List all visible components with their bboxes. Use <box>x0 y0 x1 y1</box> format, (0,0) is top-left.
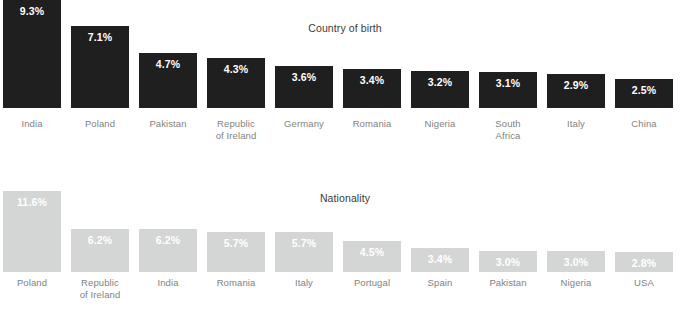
bar-value-label: 3.2% <box>411 76 469 88</box>
bar[interactable]: 3.4% <box>343 69 401 108</box>
category-label: Pakistan <box>472 277 544 289</box>
bar[interactable]: 2.9% <box>547 74 605 108</box>
chart-country-of-birth: Country of birth 9.3%7.1%4.7%4.3%3.6%3.4… <box>0 0 681 156</box>
bar[interactable]: 3.4% <box>411 248 469 272</box>
category-label: China <box>608 118 680 130</box>
category-label: SouthAfrica <box>472 118 544 141</box>
category-label: Poland <box>64 118 136 130</box>
bar-value-label: 3.4% <box>343 74 401 86</box>
bar[interactable]: 3.2% <box>411 71 469 108</box>
bar[interactable]: 3.6% <box>275 66 333 108</box>
category-label: Italy <box>268 277 340 289</box>
category-label: Nigeria <box>540 277 612 289</box>
chart-page: { "chart_data": [ { "type": "bar", "titl… <box>0 0 681 312</box>
bar-value-label: 4.3% <box>207 63 265 75</box>
bar-value-label: 2.5% <box>615 84 673 96</box>
bar[interactable]: 6.2% <box>71 229 129 272</box>
bar[interactable]: 5.7% <box>207 232 265 272</box>
category-label: Spain <box>404 277 476 289</box>
bar[interactable]: 3.1% <box>479 72 537 108</box>
category-label: Republicof Ireland <box>64 277 136 300</box>
bar[interactable]: 4.7% <box>139 53 197 108</box>
bar-value-label: 3.0% <box>547 256 605 268</box>
category-label: India <box>0 118 68 130</box>
bar-value-label: 3.4% <box>411 253 469 265</box>
bar[interactable]: 2.5% <box>615 79 673 108</box>
bar[interactable]: 11.6% <box>3 191 61 272</box>
bar[interactable]: 3.0% <box>547 251 605 272</box>
bar-value-label: 11.6% <box>3 196 61 208</box>
bar[interactable]: 5.7% <box>275 232 333 272</box>
bar-value-label: 6.2% <box>139 234 197 246</box>
bar-value-label: 5.7% <box>275 237 333 249</box>
bar-value-label: 2.8% <box>615 257 673 269</box>
category-label: Italy <box>540 118 612 130</box>
plot-area: 9.3%7.1%4.7%4.3%3.6%3.4%3.2%3.1%2.9%2.5% <box>3 0 681 108</box>
bar[interactable]: 7.1% <box>71 26 129 108</box>
category-label: Poland <box>0 277 68 289</box>
category-label: Nigeria <box>404 118 476 130</box>
bar-value-label: 4.7% <box>139 58 197 70</box>
category-label: Germany <box>268 118 340 130</box>
bar[interactable]: 3.0% <box>479 251 537 272</box>
bar[interactable]: 9.3% <box>3 0 61 108</box>
chart-nationality: Nationality 11.6%6.2%6.2%5.7%5.7%4.5%3.4… <box>0 156 681 312</box>
bar-value-label: 6.2% <box>71 234 129 246</box>
category-label: Republicof Ireland <box>200 118 272 141</box>
category-label: USA <box>608 277 680 289</box>
category-label: Romania <box>336 118 408 130</box>
bar-value-label: 3.6% <box>275 71 333 83</box>
bar-value-label: 3.0% <box>479 256 537 268</box>
bar-value-label: 5.7% <box>207 237 265 249</box>
category-label: Portugal <box>336 277 408 289</box>
bar[interactable]: 4.5% <box>343 241 401 272</box>
bar[interactable]: 4.3% <box>207 58 265 108</box>
plot-area: 11.6%6.2%6.2%5.7%5.7%4.5%3.4%3.0%3.0%2.8… <box>3 191 681 272</box>
bar[interactable]: 6.2% <box>139 229 197 272</box>
bar-value-label: 4.5% <box>343 246 401 258</box>
bar[interactable]: 2.8% <box>615 252 673 272</box>
category-label: Pakistan <box>132 118 204 130</box>
bar-value-label: 7.1% <box>71 31 129 43</box>
category-label: India <box>132 277 204 289</box>
bar-value-label: 3.1% <box>479 77 537 89</box>
bar-value-label: 2.9% <box>547 79 605 91</box>
bar-value-label: 9.3% <box>3 5 61 17</box>
category-label: Romania <box>200 277 272 289</box>
